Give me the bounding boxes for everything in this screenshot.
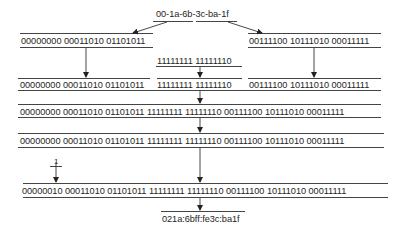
arrow-mac-to-right xyxy=(228,22,262,33)
arrow-layer xyxy=(0,0,406,235)
arrow-mac-to-left xyxy=(133,22,167,33)
